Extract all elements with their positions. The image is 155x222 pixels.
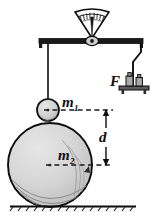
pivot-center-dot bbox=[90, 39, 94, 43]
gravitation-apparatus-diagram: m 1 m 2 d F bbox=[0, 0, 155, 222]
label-m1-subscript: 1 bbox=[74, 103, 79, 113]
label-F: F bbox=[109, 73, 120, 89]
label-d: d bbox=[99, 129, 107, 145]
large-sphere-m2 bbox=[8, 123, 92, 213]
ground-hatching bbox=[10, 207, 133, 211]
label-m2-base: m bbox=[58, 147, 70, 163]
weight-pan-leg-left bbox=[122, 90, 125, 94]
weight-pan-platform bbox=[119, 86, 149, 90]
weight-block-2 bbox=[136, 74, 142, 86]
small-sphere-m1 bbox=[37, 99, 59, 123]
beam-left-tip bbox=[39, 43, 42, 48]
balance-beam bbox=[39, 36, 143, 48]
weight-pan bbox=[119, 73, 149, 94]
dial-scale-gauge bbox=[75, 9, 109, 38]
label-m2-subscript: 2 bbox=[69, 156, 75, 166]
ground-surface bbox=[10, 207, 136, 212]
physics-diagram-figure: m 1 m 2 d F bbox=[0, 0, 155, 222]
weight-block-1 bbox=[126, 73, 133, 86]
label-m1-base: m bbox=[62, 94, 74, 110]
weight-pan-leg-right bbox=[144, 90, 147, 94]
